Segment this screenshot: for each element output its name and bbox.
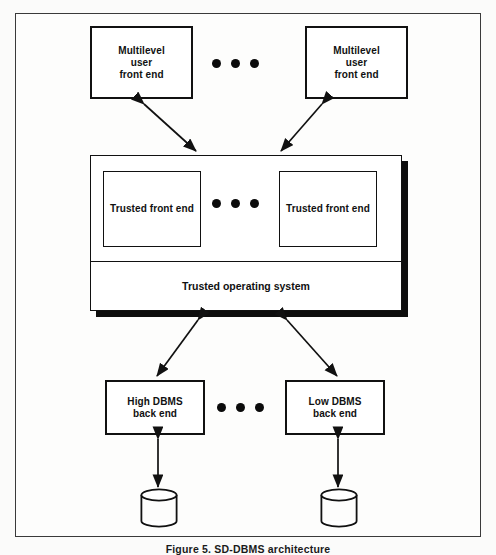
ellipsis-top (212, 59, 259, 68)
multilevel-user-front-end-right-label: Multilevel user front end (333, 45, 380, 81)
multilevel-user-front-end-left-label: Multilevel user front end (118, 45, 165, 81)
figure-caption: Figure 5. SD-DBMS architecture (0, 543, 496, 555)
trusted-computing-base-container: Trusted front end Trusted front end Trus… (90, 155, 402, 311)
ellipsis-bottom (217, 403, 264, 412)
trusted-front-end-right-box: Trusted front end (279, 171, 377, 247)
trusted-front-end-right-label: Trusted front end (286, 203, 370, 215)
ellipsis-dot (212, 59, 221, 68)
trusted-front-end-left-box: Trusted front end (103, 171, 201, 247)
ellipsis-dot (255, 403, 264, 412)
ellipsis-dot (212, 199, 221, 208)
ellipsis-dot (236, 403, 245, 412)
ellipsis-middle (212, 199, 259, 208)
database-cylinder-right-icon (320, 488, 358, 528)
ellipsis-dot (250, 199, 259, 208)
database-cylinder-left-icon (140, 488, 178, 528)
ellipsis-dot (231, 59, 240, 68)
multilevel-user-front-end-right-box: Multilevel user front end (305, 26, 408, 99)
ellipsis-dot (217, 403, 226, 412)
trusted-front-end-left-label: Trusted front end (110, 203, 194, 215)
figure-root: Multilevel user front end Multilevel use… (0, 0, 496, 555)
dbms-back-end-left-label: High DBMS back end (127, 396, 182, 420)
ellipsis-dot (250, 59, 259, 68)
trusted-operating-system-label: Trusted operating system (182, 280, 310, 292)
dbms-back-end-right-box: Low DBMS back end (285, 380, 385, 435)
dbms-back-end-right-label: Low DBMS back end (308, 396, 361, 420)
multilevel-user-front-end-left-box: Multilevel user front end (90, 26, 193, 99)
trusted-operating-system-strip: Trusted operating system (91, 261, 401, 310)
ellipsis-dot (231, 199, 240, 208)
dbms-back-end-left-box: High DBMS back end (105, 380, 205, 435)
